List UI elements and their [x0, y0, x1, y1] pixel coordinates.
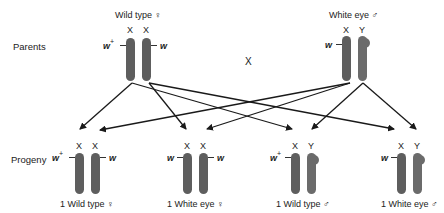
allele-label-wplus: w+	[270, 151, 281, 163]
arrow-female-x2-to-progeny4	[149, 83, 394, 129]
x-chromosome	[199, 153, 208, 194]
chromosome-type-label: X	[140, 25, 152, 35]
parent-male-label: White eye ♂	[329, 10, 378, 20]
allele-label-w: w	[381, 153, 388, 163]
chromosome-type-label: X	[124, 25, 136, 35]
x-chromosome	[91, 153, 100, 194]
x-chromosome	[291, 153, 300, 194]
allele-marker	[120, 45, 126, 46]
allele-marker	[391, 157, 397, 158]
chromosome-type-label: X	[289, 141, 301, 151]
chromosome-type-label: X	[340, 25, 352, 35]
progeny-4-label: 1 White eye ♂	[381, 199, 438, 209]
allele-marker	[100, 157, 106, 158]
arrow-female-x2-to-progeny2	[149, 83, 186, 129]
x-chromosome	[126, 38, 135, 81]
chromosome-type-label: X	[73, 141, 85, 151]
progeny-2-label: 1 White eye ♀	[167, 199, 224, 209]
allele-label-wplus: w+	[52, 151, 63, 163]
progeny-3-label: 1 Wild type ♂	[276, 199, 330, 209]
chromosome-type-label: Y	[411, 141, 423, 151]
allele-marker	[208, 157, 214, 158]
x-chromosome	[142, 38, 151, 81]
chromosome-type-label: Y	[356, 25, 368, 35]
allele-marker	[69, 157, 75, 158]
inheritance-diagram: Parents Progeny X Wild type ♀ X X w+ w W…	[0, 0, 444, 213]
cross-symbol: X	[245, 56, 252, 67]
allele-marker	[336, 44, 342, 45]
allele-label-w: w	[160, 41, 167, 51]
allele-label-w: w	[325, 40, 332, 50]
allele-label-w: w	[217, 153, 224, 163]
parents-row-label: Parents	[13, 41, 46, 52]
progeny-1-label: 1 Wild type ♀	[60, 199, 114, 209]
arrow-male-y-to-progeny4	[363, 83, 416, 129]
chromosome-type-label: X	[395, 141, 407, 151]
allele-label-w: w	[167, 153, 174, 163]
progeny-row-label: Progeny	[11, 154, 46, 165]
chromosome-type-label: X	[181, 141, 193, 151]
x-chromosome	[397, 153, 406, 194]
allele-label-w: w	[109, 153, 116, 163]
x-chromosome	[183, 153, 192, 194]
allele-label-wplus: w+	[103, 39, 114, 51]
inheritance-arrows	[0, 0, 444, 213]
parent-female-label: Wild type ♀	[115, 10, 161, 20]
x-chromosome	[75, 153, 84, 194]
chromosome-type-label: X	[197, 141, 209, 151]
chromosome-type-label: Y	[305, 141, 317, 151]
chromosome-type-label: X	[89, 141, 101, 151]
x-chromosome	[342, 36, 351, 81]
allele-marker	[285, 157, 291, 158]
allele-marker	[177, 157, 183, 158]
allele-marker	[151, 45, 157, 46]
arrow-female-x1-to-progeny1	[80, 83, 132, 129]
